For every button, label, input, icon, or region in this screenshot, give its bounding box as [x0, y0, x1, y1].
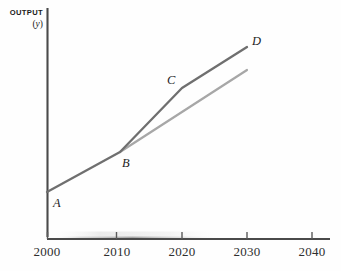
scan-artifact-band: [48, 232, 223, 237]
point-label-d: D: [251, 34, 261, 48]
point-label-a: A: [52, 196, 61, 210]
series-line-lower: [120, 70, 247, 152]
y-axis-label-group: OUTPUT (y): [10, 8, 43, 30]
x-tick-label-2030: 2030: [233, 244, 260, 259]
series-line-upper: [47, 47, 247, 192]
x-tick-label-2040: 2040: [298, 244, 325, 259]
chart-svg: 2000 2010 2020 2030 2040 OUTPUT (y) A B …: [0, 0, 341, 271]
x-tick-label-2020: 2020: [168, 244, 195, 259]
point-label-b: B: [122, 156, 130, 170]
point-labels: A B C D: [52, 34, 261, 210]
point-label-c: C: [167, 73, 176, 87]
y-axis-subtitle: (y): [32, 19, 43, 30]
y-axis-title: OUTPUT: [10, 8, 43, 17]
x-tick-label-2000: 2000: [33, 244, 60, 259]
x-axis-tick-labels: 2000 2010 2020 2030 2040: [33, 244, 325, 259]
x-tick-label-2010: 2010: [103, 244, 130, 259]
y-axis-subtitle-close: ): [40, 19, 43, 30]
line-chart-figure: 2000 2010 2020 2030 2040 OUTPUT (y) A B …: [0, 0, 341, 271]
